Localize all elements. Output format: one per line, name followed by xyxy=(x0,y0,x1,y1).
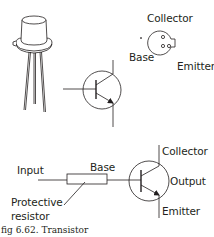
resistor-label: resistor xyxy=(11,211,49,222)
collector-label: Collector xyxy=(162,146,208,157)
base-label: Base xyxy=(90,162,115,173)
metal-can-transistor-icon xyxy=(13,16,52,112)
npn-transistor-symbol-icon xyxy=(63,60,121,127)
figure-caption: fig 6.62. Transistor xyxy=(1,226,88,235)
transistor-figure: Collector Base Emitter Input Base Collec… xyxy=(0,0,214,237)
pinout-collector-label: Collector xyxy=(147,13,193,24)
protective-label: Protective xyxy=(11,197,63,208)
input-label: Input xyxy=(17,165,44,176)
output-label: Output xyxy=(170,176,206,187)
pinout-base-label: Base xyxy=(129,52,154,63)
emitter-label: Emitter xyxy=(162,206,200,217)
pinout-emitter-label: Emitter xyxy=(177,61,214,72)
